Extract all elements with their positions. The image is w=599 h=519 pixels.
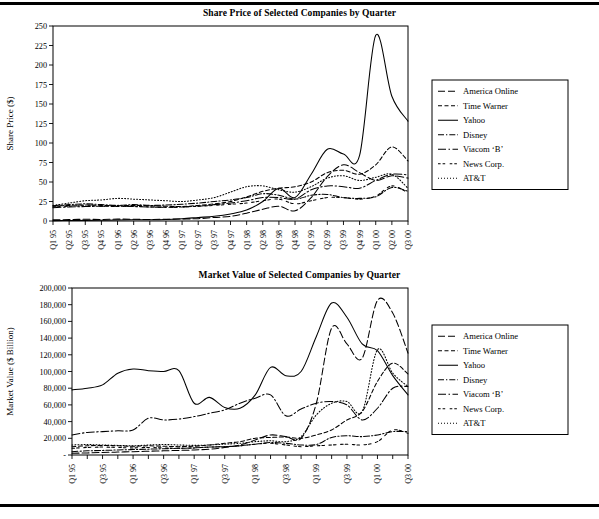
- x-tick-label: Q1 00: [372, 230, 381, 250]
- y-tick-label: 175: [35, 81, 47, 90]
- y-tick-label: 140,000: [39, 334, 66, 343]
- y-tick-label: 250: [35, 22, 47, 31]
- y-tick-label: 60,000: [43, 401, 66, 410]
- market-value-figure: Market Value of Selected Companies by Qu…: [0, 268, 599, 504]
- x-tick-label: Q2 98: [259, 230, 268, 250]
- series-line: [72, 363, 408, 447]
- page-top-rule: [0, 2, 599, 5]
- legend-label: Viacom ‘B’: [463, 144, 503, 154]
- x-tick-label: Q3 00: [404, 464, 413, 484]
- series-line: [53, 165, 408, 220]
- y-tick-label: 50: [39, 178, 47, 187]
- x-tick-label: Q3 96: [146, 230, 155, 250]
- legend-label: Disney: [463, 130, 488, 140]
- y-axis-title: Market Value ($ Billion): [5, 327, 15, 416]
- x-tick-label: Q4 97: [227, 230, 236, 250]
- legend-label: America Online: [463, 86, 518, 96]
- y-tick-label: 40,000: [43, 418, 66, 427]
- x-tick-label: Q3 97: [221, 464, 230, 484]
- x-tick-label: Q3 98: [282, 464, 291, 484]
- y-tick-label: 100: [35, 139, 47, 148]
- x-tick-label: Q1 00: [373, 464, 382, 484]
- x-tick-label: Q1 96: [129, 464, 138, 484]
- y-tick-label: -: [63, 451, 66, 460]
- x-tick-label: Q4 95: [97, 230, 106, 250]
- x-tick-label: Q3 99: [339, 230, 348, 250]
- x-tick-label: Q1 95: [49, 230, 58, 250]
- legend-label: Disney: [463, 375, 488, 385]
- x-tick-label: Q3 96: [160, 464, 169, 484]
- series-line: [72, 302, 408, 409]
- legend-label: AT&T: [463, 418, 486, 428]
- legend-label: Yahoo: [463, 360, 485, 370]
- legend-label: America Online: [463, 331, 518, 341]
- series-line: [72, 386, 408, 435]
- x-tick-label: Q3 98: [275, 230, 284, 250]
- x-tick-label: Q4 98: [291, 230, 300, 250]
- legend-label: Yahoo: [463, 115, 485, 125]
- series-line: [72, 430, 408, 449]
- y-tick-label: 80,000: [43, 384, 66, 393]
- x-tick-label: Q4 99: [356, 230, 365, 250]
- x-tick-label: Q2 96: [130, 230, 139, 250]
- legend-label: Time Warner: [463, 101, 508, 111]
- series-line: [53, 186, 408, 207]
- plot-frame: [53, 26, 408, 221]
- x-tick-label: Q3 95: [99, 464, 108, 484]
- series-line: [72, 431, 408, 451]
- y-tick-label: 200,000: [39, 284, 66, 293]
- y-tick-label: 25: [39, 198, 47, 207]
- x-tick-label: Q3 00: [404, 230, 413, 250]
- x-tick-label: Q1 97: [190, 464, 199, 484]
- x-tick-label: Q1 96: [114, 230, 123, 250]
- x-tick-label: Q2 95: [65, 230, 74, 250]
- x-tick-label: Q3 97: [210, 230, 219, 250]
- y-tick-label: 75: [39, 159, 47, 168]
- x-tick-label: Q1 95: [68, 464, 77, 484]
- y-tick-label: 225: [35, 42, 47, 51]
- series-line: [53, 34, 408, 220]
- x-tick-label: Q1 98: [251, 464, 260, 484]
- market-value-chart: -20,00040,00060,00080,000100,000120,0001…: [0, 280, 599, 498]
- y-axis-title: Share Price ($): [5, 97, 15, 151]
- legend-label: Time Warner: [463, 346, 508, 356]
- x-tick-label: Q1 98: [243, 230, 252, 250]
- share-price-figure: Share Price of Selected Companies by Qua…: [0, 6, 599, 260]
- legend-label: News Corp.: [463, 404, 504, 414]
- y-tick-label: 120,000: [39, 351, 66, 360]
- y-tick-label: 160,000: [39, 317, 66, 326]
- legend-label: Viacom ‘B’: [463, 389, 503, 399]
- market-value-plot-area: -20,00040,00060,00080,000100,000120,0001…: [0, 280, 599, 498]
- market-value-title: Market Value of Selected Companies by Qu…: [0, 268, 599, 280]
- series-line: [72, 298, 408, 453]
- y-tick-label: 100,000: [39, 368, 66, 377]
- share-price-plot-area: 0255075100125150175200225250Share Price …: [0, 18, 599, 250]
- y-tick-label: 200: [35, 61, 47, 70]
- x-tick-label: Q3 99: [343, 464, 352, 484]
- page-bottom-rule: [0, 504, 599, 507]
- x-tick-label: Q2 97: [194, 230, 203, 250]
- y-tick-label: 20,000: [43, 434, 66, 443]
- share-price-title: Share Price of Selected Companies by Qua…: [0, 6, 599, 18]
- y-tick-label: 0: [43, 217, 47, 226]
- y-tick-label: 125: [35, 120, 47, 129]
- legend-label: News Corp.: [463, 159, 504, 169]
- series-line: [53, 147, 408, 207]
- share-price-chart: 0255075100125150175200225250Share Price …: [0, 18, 599, 250]
- x-tick-label: Q1 99: [307, 230, 316, 250]
- x-tick-label: Q1 99: [312, 464, 321, 484]
- y-tick-label: 180,000: [39, 301, 66, 310]
- x-tick-label: Q3 95: [81, 230, 90, 250]
- x-tick-label: Q2 00: [388, 230, 397, 250]
- x-tick-label: Q4 96: [162, 230, 171, 250]
- series-line: [53, 174, 408, 206]
- x-tick-label: Q2 99: [323, 230, 332, 250]
- legend-label: AT&T: [463, 173, 486, 183]
- x-tick-label: Q1 97: [178, 230, 187, 250]
- y-tick-label: 150: [35, 100, 47, 109]
